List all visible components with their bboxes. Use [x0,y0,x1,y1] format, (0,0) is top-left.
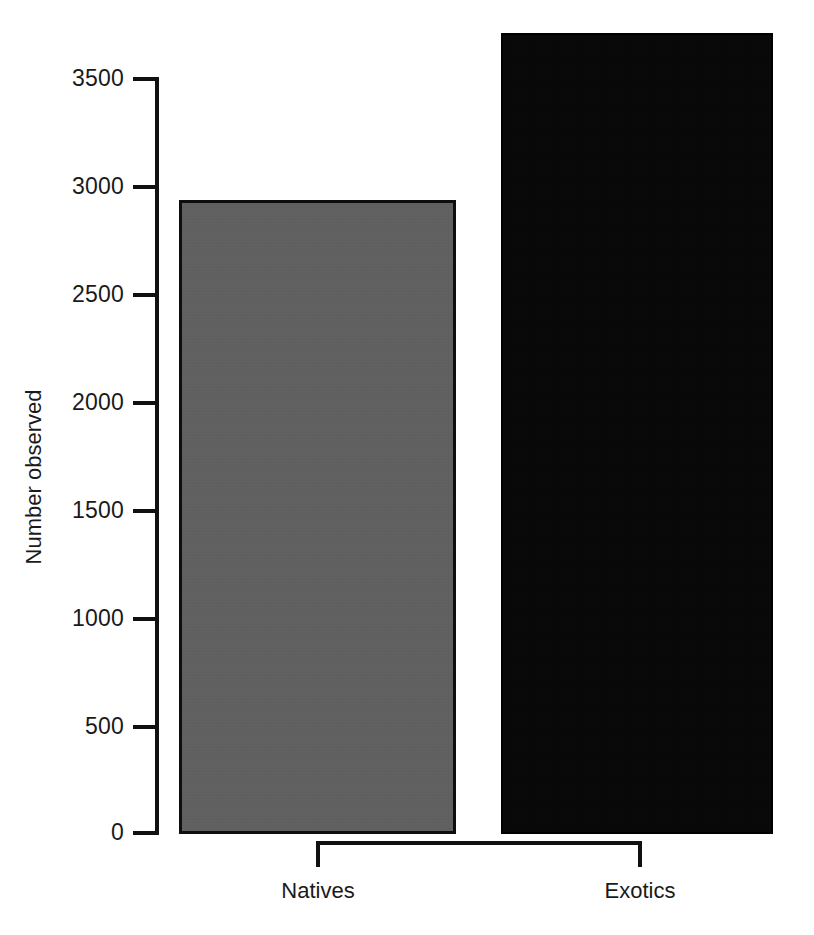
y-axis-label-2500: 2500 [0,283,124,306]
y-axis-line [155,77,159,833]
y-axis-label-500: 500 [0,715,124,738]
y-axis-tick-2000 [133,401,159,405]
x-axis-tick-natives [316,841,320,867]
x-axis-label-exotics: Exotics [605,880,676,902]
y-axis-tick-500 [133,725,159,729]
x-axis-label-natives: Natives [281,880,354,902]
y-axis-tick-1000 [133,617,159,621]
y-axis-label-1500: 1500 [0,499,124,522]
y-axis-label-500-wrap: 500 [0,715,124,738]
bar-texture-natives [182,203,453,831]
bar-exotics [501,33,773,834]
y-axis-label-2500-wrap: 2500 [0,283,124,306]
y-axis-label-1000: 1000 [0,607,124,630]
y-axis-label-3000: 3000 [0,175,124,198]
y-axis-tick-3500 [133,77,159,81]
y-axis-label-0: 0 [0,821,124,844]
x-axis-line [316,841,642,845]
y-axis-tick-3000 [133,185,159,189]
y-axis-label-3500-wrap: 3500 [0,67,124,90]
bar-chart-figure: 3500 3000 2500 2000 1500 1000 500 0 Numb… [0,0,814,935]
y-axis-label-3500: 3500 [0,67,124,90]
y-axis-title: Number observed [23,377,45,577]
y-axis-tick-1500 [133,509,159,513]
y-axis-tick-2500 [133,293,159,297]
y-axis-label-1000-wrap: 1000 [0,607,124,630]
y-axis-tick-0 [133,831,159,835]
y-axis-label-2000: 2000 [0,391,124,414]
y-axis-label-1500-wrap: 1500 [0,499,124,522]
bar-texture-exotics [503,35,771,832]
y-axis-label-0-wrap: 0 [0,821,124,844]
bar-natives [179,200,456,834]
x-axis-tick-exotics [638,841,642,867]
y-axis-label-2000-wrap: 2000 [0,391,124,414]
y-axis-label-3000-wrap: 3000 [0,175,124,198]
